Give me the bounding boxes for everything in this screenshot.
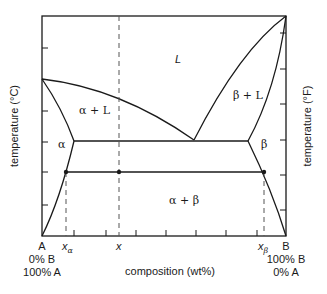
bottom-axis-ticks: [74, 230, 257, 236]
region-alpha: α: [58, 138, 66, 151]
left-axis-label: temperature (°C): [8, 85, 20, 167]
plot-frame: [42, 16, 286, 236]
solvus-right: [248, 141, 286, 236]
region-alpha-beta: α + β: [169, 194, 199, 207]
beta-point: [262, 170, 266, 174]
alpha-point: [64, 170, 68, 174]
label-x-beta: xβ: [257, 240, 269, 255]
x-point: [117, 170, 121, 174]
solidus-left: [42, 79, 74, 141]
region-beta-liquid: β + L: [233, 89, 264, 102]
region-liquid: L: [175, 53, 181, 65]
left-axis-ticks: [42, 48, 48, 205]
label-100-b: 100% B: [267, 253, 306, 265]
solvus-left: [42, 141, 74, 236]
label-0-a: 0% A: [273, 266, 299, 278]
label-b: B: [282, 240, 289, 252]
label-100-a: 100% A: [23, 266, 62, 278]
label-x-alpha: xα: [61, 240, 74, 255]
label-0-b: 0% B: [29, 253, 55, 265]
right-axis-ticks: [280, 33, 286, 210]
solidus-right: [248, 16, 286, 141]
liquidus-left: [42, 79, 194, 140]
region-alpha-liquid: α + L: [79, 104, 111, 117]
region-beta: β: [261, 138, 267, 151]
label-a: A: [38, 240, 46, 252]
label-x: x: [115, 240, 122, 252]
phase-diagram: L α + L β + L α β α + β temperature (°C)…: [0, 0, 327, 294]
bottom-axis-label: composition (wt%): [125, 265, 215, 277]
right-axis-label: temperature (°F): [301, 86, 313, 167]
liquidus-right: [194, 16, 286, 140]
